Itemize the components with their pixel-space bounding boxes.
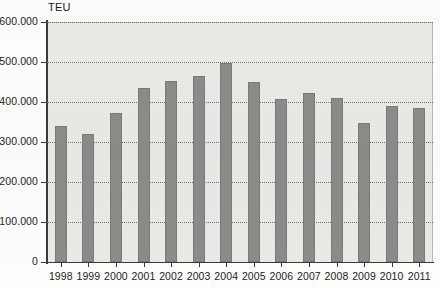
x-axis-tick-label: 2006 bbox=[268, 270, 296, 282]
gridline bbox=[47, 62, 433, 63]
y-axis-tick-label: 300.000 bbox=[0, 135, 38, 147]
y-axis-tick-label: 600.000 bbox=[0, 15, 38, 27]
x-axis-tick-label: 2004 bbox=[212, 270, 240, 282]
y-axis-tick bbox=[41, 262, 47, 263]
y-axis-tick-label: 100.000 bbox=[0, 215, 38, 227]
gridline bbox=[47, 182, 433, 183]
x-axis-line bbox=[46, 262, 434, 263]
bar bbox=[275, 99, 287, 262]
y-axis-tick bbox=[41, 102, 47, 103]
gridline bbox=[47, 142, 433, 143]
bar bbox=[220, 63, 232, 262]
x-axis-tick bbox=[364, 262, 365, 267]
x-axis-tick bbox=[281, 262, 282, 267]
y-axis-tick-label: 0 bbox=[32, 255, 38, 267]
x-axis-tick-label: 2008 bbox=[323, 270, 351, 282]
x-axis-tick bbox=[171, 262, 172, 267]
x-axis-tick-label: 2011 bbox=[405, 270, 433, 282]
gridline bbox=[47, 222, 433, 223]
y-axis-tick bbox=[41, 222, 47, 223]
gridline bbox=[47, 22, 433, 23]
bar bbox=[413, 108, 425, 262]
y-axis-tick bbox=[41, 62, 47, 63]
bar bbox=[303, 93, 315, 262]
x-axis-tick bbox=[116, 262, 117, 267]
x-axis-tick-label: 1998 bbox=[47, 270, 75, 282]
bar bbox=[110, 113, 122, 262]
x-axis-tick-label: 2003 bbox=[185, 270, 213, 282]
x-axis-tick bbox=[254, 262, 255, 267]
bar-chart: TEU 0100.000200.000300.000400.000500.000… bbox=[0, 0, 440, 288]
bar bbox=[138, 88, 150, 262]
x-axis-tick bbox=[61, 262, 62, 267]
x-axis-tick-label: 2000 bbox=[102, 270, 130, 282]
bar bbox=[193, 76, 205, 262]
y-axis-tick-label: 200.000 bbox=[0, 175, 38, 187]
x-axis-tick bbox=[144, 262, 145, 267]
x-axis-tick bbox=[309, 262, 310, 267]
bar bbox=[248, 82, 260, 262]
x-axis-tick-label: 1999 bbox=[75, 270, 103, 282]
x-axis-tick-label: 2001 bbox=[130, 270, 158, 282]
y-axis-tick bbox=[41, 142, 47, 143]
y-axis-tick bbox=[41, 182, 47, 183]
x-axis-tick-label: 2002 bbox=[157, 270, 185, 282]
bar bbox=[82, 134, 94, 262]
bar bbox=[165, 81, 177, 262]
x-axis-tick bbox=[392, 262, 393, 267]
x-axis-tick-label: 2010 bbox=[378, 270, 406, 282]
x-axis-tick-label: 2007 bbox=[295, 270, 323, 282]
gridline bbox=[47, 102, 433, 103]
x-axis-tick bbox=[226, 262, 227, 267]
y-axis-unit-caption: TEU bbox=[48, 1, 71, 13]
x-axis-tick-label: 2009 bbox=[350, 270, 378, 282]
x-axis-tick-label: 2005 bbox=[240, 270, 268, 282]
bar bbox=[358, 123, 370, 262]
bar bbox=[331, 98, 343, 262]
y-axis-tick bbox=[41, 22, 47, 23]
y-axis-tick-label: 500.000 bbox=[0, 55, 38, 67]
x-axis-tick bbox=[419, 262, 420, 267]
x-axis-tick bbox=[199, 262, 200, 267]
bar bbox=[55, 126, 67, 262]
x-axis-tick bbox=[88, 262, 89, 267]
x-axis-tick bbox=[337, 262, 338, 267]
y-axis-tick-label: 400.000 bbox=[0, 95, 38, 107]
bar bbox=[386, 106, 398, 262]
